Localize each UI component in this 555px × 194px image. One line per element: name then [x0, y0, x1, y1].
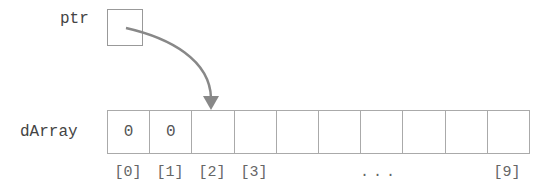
- array-cell-8: [446, 111, 488, 153]
- array-cells: 0 0: [107, 110, 530, 154]
- array-cell-7: [403, 111, 445, 153]
- array-label: dArray: [20, 123, 78, 141]
- index-label-9: [9]: [486, 164, 528, 182]
- array-cell-3: [235, 111, 277, 153]
- array-cell-0: 0: [108, 111, 150, 153]
- array-cell-4: [277, 111, 319, 153]
- index-label-3: [3]: [233, 164, 275, 182]
- pointer-arrow: [0, 0, 555, 194]
- arrowhead-icon: [203, 96, 219, 110]
- array-cell-5: [319, 111, 361, 153]
- array-cell-9: [488, 111, 530, 153]
- index-label-2: [2]: [191, 164, 233, 182]
- index-label-1: [1]: [149, 164, 191, 182]
- array-cell-1: 0: [150, 111, 192, 153]
- array-cell-6: [361, 111, 403, 153]
- array-cell-2: [192, 111, 234, 153]
- index-label-0: [0]: [107, 164, 149, 182]
- index-ellipsis: ...: [360, 164, 399, 181]
